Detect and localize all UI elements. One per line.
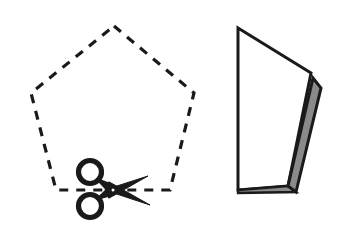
figure-canvas: Cutting a dashed pentagon with scissors …: [0, 0, 341, 236]
diagram-svg: Cutting a dashed pentagon with scissors …: [0, 0, 341, 236]
scissors-pivot-icon: [111, 188, 115, 192]
